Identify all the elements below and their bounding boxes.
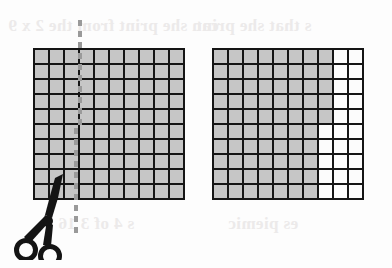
scissors-icon	[14, 172, 92, 260]
grid-cell	[110, 185, 123, 198]
grid-cell	[65, 65, 78, 78]
grid-cell	[35, 65, 48, 78]
grid-cell	[349, 65, 362, 78]
grid-cell	[214, 125, 227, 138]
grid-cell	[244, 125, 257, 138]
grid-cell	[259, 155, 272, 168]
grid-cell	[229, 80, 242, 93]
grid-cell	[50, 110, 63, 123]
grid-cell	[125, 80, 138, 93]
grid-cell	[334, 125, 347, 138]
grid-cell	[274, 125, 287, 138]
grid-cell	[334, 95, 347, 108]
grid-cell	[229, 125, 242, 138]
grid-cell	[35, 50, 48, 63]
grid-cell	[140, 110, 153, 123]
grid-cell	[229, 95, 242, 108]
ghost-text-top-right: s that she print	[196, 16, 312, 36]
grid-cell	[289, 80, 302, 93]
grid-cell	[170, 125, 183, 138]
grid-cell	[244, 185, 257, 198]
grid-cell	[244, 170, 257, 183]
grid-cell	[274, 185, 287, 198]
grid-cell	[95, 95, 108, 108]
grid-cell	[110, 95, 123, 108]
grid-cell	[289, 155, 302, 168]
grid-cell	[319, 140, 332, 153]
grid-cell	[304, 95, 317, 108]
grid-cell	[140, 155, 153, 168]
grid-cell	[289, 65, 302, 78]
grid-cell	[110, 65, 123, 78]
grid-cell	[170, 50, 183, 63]
grid-cell	[95, 50, 108, 63]
grid-cell	[35, 80, 48, 93]
grid-cell	[274, 155, 287, 168]
grid-cell	[155, 110, 168, 123]
grid-cell	[214, 155, 227, 168]
grid-cell	[214, 140, 227, 153]
grid-cell	[95, 185, 108, 198]
grid-cell	[50, 65, 63, 78]
grid-cell	[110, 140, 123, 153]
grid-cell	[35, 155, 48, 168]
grid-cell	[155, 125, 168, 138]
grid-cell	[319, 110, 332, 123]
grid-cell	[110, 125, 123, 138]
grid-cell	[65, 50, 78, 63]
grid-cell	[65, 95, 78, 108]
grid-cell	[244, 95, 257, 108]
grid-cell	[304, 110, 317, 123]
grid-cell	[334, 185, 347, 198]
grid-cell	[214, 95, 227, 108]
grid-cell	[349, 140, 362, 153]
grid-cell	[214, 65, 227, 78]
grid-cell	[170, 155, 183, 168]
grid-cell	[289, 50, 302, 63]
grid-cell	[65, 110, 78, 123]
grid-cell	[155, 50, 168, 63]
grid-cell	[229, 65, 242, 78]
grid-cell	[170, 95, 183, 108]
grid-cell	[35, 110, 48, 123]
right-hundred-grid	[212, 48, 364, 200]
grid-cell	[35, 95, 48, 108]
grid-cell	[229, 140, 242, 153]
scan-page: can she print from the 2 x 9 s that she …	[0, 0, 392, 268]
grid-cell	[95, 110, 108, 123]
grid-cell	[125, 95, 138, 108]
grid-cell	[95, 170, 108, 183]
grid-cell	[304, 140, 317, 153]
grid-cell	[319, 80, 332, 93]
grid-cell	[140, 50, 153, 63]
grid-cell	[334, 140, 347, 153]
grid-cell	[214, 80, 227, 93]
grid-cell	[349, 80, 362, 93]
grid-cell	[334, 65, 347, 78]
grid-cell	[95, 80, 108, 93]
grid-cell	[110, 50, 123, 63]
grid-cell	[334, 110, 347, 123]
grid-cell	[349, 155, 362, 168]
grid-cell	[50, 95, 63, 108]
grid-cell	[80, 155, 93, 168]
grid-cell	[289, 170, 302, 183]
grid-cell	[155, 155, 168, 168]
grid-cell	[140, 65, 153, 78]
grid-cell	[334, 155, 347, 168]
grid-cell	[349, 185, 362, 198]
grid-cell	[170, 80, 183, 93]
grid-cell	[80, 140, 93, 153]
grid-cell	[349, 50, 362, 63]
grid-cell	[334, 170, 347, 183]
grid-cell	[319, 185, 332, 198]
grid-cell	[259, 65, 272, 78]
grid-cell	[140, 80, 153, 93]
grid-cell	[50, 155, 63, 168]
grid-cell	[95, 65, 108, 78]
grid-cell	[259, 50, 272, 63]
ghost-text-top-left: can she print from the 2 x 9	[8, 16, 219, 36]
grid-cell	[274, 140, 287, 153]
grid-cell	[289, 185, 302, 198]
grid-cell	[259, 110, 272, 123]
